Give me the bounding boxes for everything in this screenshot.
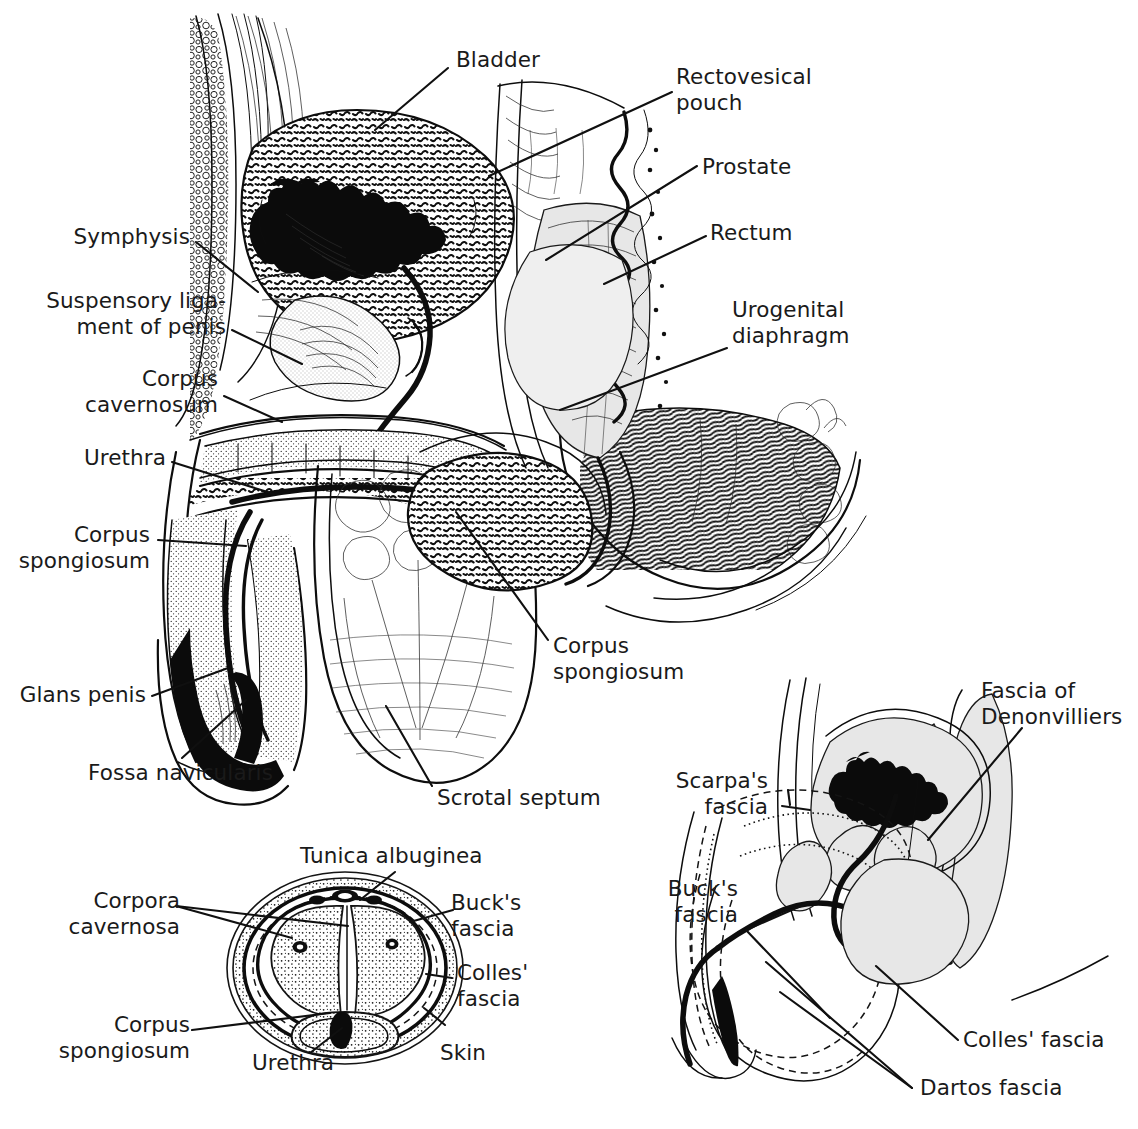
label-corpus-spongiosum-mid: Corpus spongiosum — [553, 633, 684, 685]
cross-section-illustration — [176, 872, 463, 1064]
label-prostate: Prostate — [702, 154, 791, 180]
label-corpus-spongiosum-cross: Corpus spongiosum — [0, 1012, 190, 1064]
label-bucks-fascia: Buck's fascia — [610, 876, 738, 928]
label-scrotal-septum: Scrotal septum — [437, 785, 601, 811]
label-skin: Skin — [440, 1040, 486, 1066]
label-urogenital-diaphragm: Urogenital diaphragm — [732, 297, 850, 349]
anatomy-artwork — [0, 0, 1138, 1129]
label-bladder: Bladder — [456, 47, 540, 73]
label-colles-fascia: Colles' fascia — [963, 1027, 1105, 1053]
label-urethra: Urethra — [0, 445, 166, 471]
label-corpora-cavernosa: Corpora cavernosa — [0, 888, 180, 940]
label-urethra-cross: Urethra — [252, 1050, 334, 1076]
label-glans-penis: Glans penis — [0, 682, 146, 708]
label-rectovesical-pouch: Rectovesical pouch — [676, 64, 812, 116]
label-colles-fascia-cross: Colles' fascia — [457, 960, 528, 1012]
label-corpus-cavernosum: Corpus cavernosum — [0, 366, 218, 418]
label-bucks-fascia-cross: Buck's fascia — [451, 890, 521, 942]
label-dartos-fascia: Dartos fascia — [920, 1075, 1062, 1101]
label-corpus-spongiosum-left: Corpus spongiosum — [0, 522, 150, 574]
main-sagittal-illustration — [152, 10, 870, 805]
label-tunica-albuginea: Tunica albuginea — [300, 843, 483, 869]
label-suspensory-ligament-of-penis: Suspensory liga- ment of penis — [0, 288, 226, 340]
label-symphysis: Symphysis — [0, 224, 190, 250]
label-rectum: Rectum — [710, 220, 793, 246]
label-scarpas-fascia: Scarpa's fascia — [610, 768, 768, 820]
label-fossa-navicularis: Fossa navicularis — [88, 760, 273, 786]
figure-canvas: Bladder Rectovesical pouch Prostate Rect… — [0, 0, 1138, 1129]
label-fascia-of-denonvilliers: Fascia of Denonvilliers — [981, 678, 1122, 730]
